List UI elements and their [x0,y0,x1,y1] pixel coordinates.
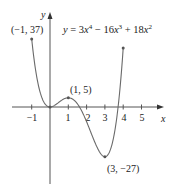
y-axis-label: y [40,9,46,20]
function-curve [32,39,124,157]
data-point [67,96,70,99]
tick-label: 5 [140,112,145,123]
data-point [122,47,125,50]
data-point [49,106,52,109]
tick-label: 3 [103,112,108,123]
data-point [30,37,33,40]
y-axis-arrow-icon [48,12,53,19]
point-label-local-max: (1, 5) [70,84,92,96]
labeled-points [30,37,125,158]
tick-label: 4 [122,112,127,123]
function-graph: −1 1 2 3 4 5 x y (−1, 37) (1, 5) (3, −27… [0,0,177,194]
equation-label: y = 3x4 − 16x3 + 18x2 [62,23,152,35]
x-axis-label: x [160,113,166,124]
x-axis-arrow-icon [157,105,164,110]
point-label-min: (3, −27) [107,163,139,175]
point-label-min-left: (−1, 37) [11,24,43,36]
tick-label: −1 [27,112,38,123]
tick-label: 1 [66,112,71,123]
data-point [103,155,106,158]
